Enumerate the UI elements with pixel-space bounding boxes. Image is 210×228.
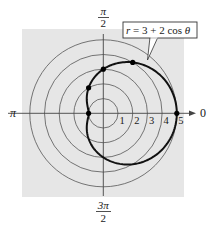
angle-label-pi-over-2-denominator: 2 <box>101 17 107 29</box>
data-point <box>86 85 91 90</box>
radial-tick-label: 5 <box>178 115 183 126</box>
polar-graph-figure: 12345 0 π π 2 3π 2 r = 3 + 2 cos θ <box>0 0 210 228</box>
axis-arrow-icon <box>189 111 196 116</box>
polar-plot: 12345 0 π π 2 3π 2 r = 3 + 2 cos θ <box>0 0 210 228</box>
data-point <box>86 111 91 116</box>
data-point <box>174 111 179 116</box>
radial-tick-label: 2 <box>134 115 139 126</box>
radial-tick-label: 3 <box>149 115 154 126</box>
angle-label-pi-over-2: π 2 <box>98 5 109 29</box>
equation-theta: θ <box>185 24 191 36</box>
angle-label-three-pi-over-2-numerator: 3π <box>97 199 110 211</box>
radial-tick-label: 4 <box>164 115 170 126</box>
angle-label-three-pi-over-2: 3π 2 <box>96 199 111 224</box>
radial-tick-label: 1 <box>120 115 125 126</box>
angle-label-zero: 0 <box>200 106 206 120</box>
angle-label-pi-over-2-numerator: π <box>101 5 107 17</box>
angle-label-pi: π <box>10 106 17 120</box>
data-point <box>101 67 106 72</box>
equation-body: = 3 + 2 cos <box>130 24 185 36</box>
equation-label: r = 3 + 2 cos θ <box>126 24 191 36</box>
data-point <box>130 60 135 65</box>
angle-label-three-pi-over-2-denominator: 2 <box>101 212 107 224</box>
